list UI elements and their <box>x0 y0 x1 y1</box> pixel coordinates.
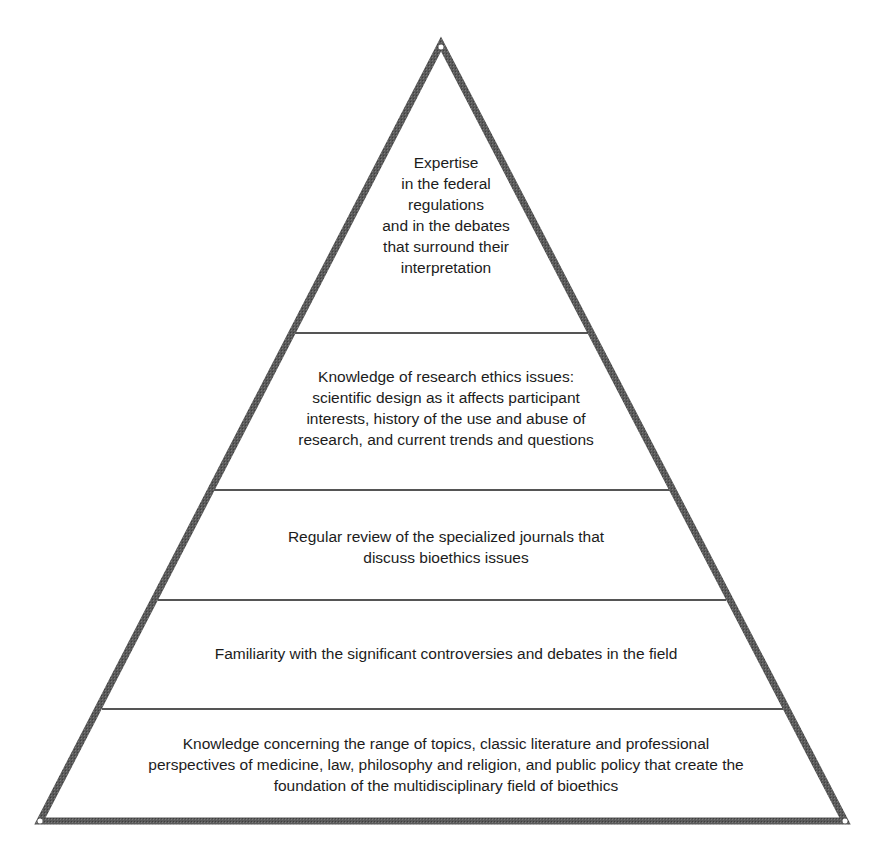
tier-4-controversies-familiarity: Familiarity with the significant controv… <box>140 643 752 664</box>
tier-5-foundational-knowledge: Knowledge concerning the range of topics… <box>70 733 822 796</box>
tier-3-journal-review: Regular review of the specialized journa… <box>200 526 692 568</box>
base-right-dot <box>843 819 848 824</box>
tier-1-federal-regulations-expertise: Expertise in the federal regulations and… <box>320 152 572 278</box>
tier-2-research-ethics-knowledge: Knowledge of research ethics issues: sci… <box>250 366 642 450</box>
base-left-dot <box>38 819 43 824</box>
apex-dot <box>439 45 444 50</box>
